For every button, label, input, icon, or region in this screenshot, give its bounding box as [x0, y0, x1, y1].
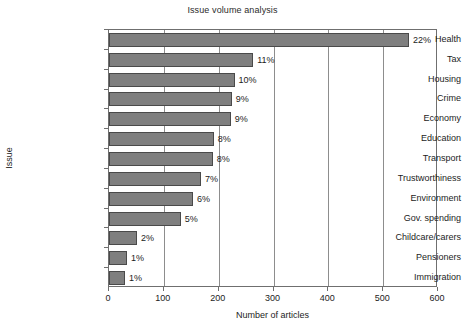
bar[interactable]: [109, 172, 201, 186]
bar-value-label: 1%: [127, 253, 144, 263]
y-tick-mark: [104, 168, 108, 169]
y-axis-title: Issue: [4, 147, 14, 169]
y-tick-mark: [104, 188, 108, 189]
y-tick-label: Pensioners: [361, 252, 465, 262]
x-tick-label: 400: [320, 293, 335, 303]
x-tick-label: 0: [105, 293, 110, 303]
x-tick-label: 600: [429, 293, 444, 303]
bar-chart: Issue volume analysis Issue 22%11%10%9%9…: [0, 0, 465, 335]
y-tick-label: Gov. spending: [361, 213, 465, 223]
y-tick-label: Childcare/carers: [361, 232, 465, 242]
y-tick-label: Health: [361, 34, 465, 44]
y-tick-label: Transport: [361, 153, 465, 163]
y-tick-mark: [104, 108, 108, 109]
bar-value-label: 1%: [125, 273, 142, 283]
bar[interactable]: [109, 112, 231, 126]
y-tick-mark: [104, 89, 108, 90]
y-axis-title-container: Issue: [0, 29, 18, 287]
y-tick-mark: [104, 247, 108, 248]
bar-value-label: 9%: [232, 94, 249, 104]
y-tick-label: Housing: [361, 74, 465, 84]
y-tick-mark: [104, 208, 108, 209]
bar-value-label: 2%: [137, 233, 154, 243]
y-tick-label: Economy: [361, 113, 465, 123]
bar-value-label: 11%: [253, 55, 274, 65]
bar[interactable]: [109, 152, 213, 166]
bar[interactable]: [109, 92, 232, 106]
bar-value-label: 6%: [193, 194, 210, 204]
y-tick-label: Education: [361, 133, 465, 143]
x-tick-label: 200: [210, 293, 225, 303]
x-tick-mark: [382, 287, 383, 291]
y-tick-mark: [104, 49, 108, 50]
y-tick-mark: [104, 29, 108, 30]
bar-value-label: 5%: [181, 214, 198, 224]
x-tick-label: 300: [265, 293, 280, 303]
y-tick-mark: [104, 128, 108, 129]
bar-value-label: 9%: [231, 114, 248, 124]
x-tick-mark: [108, 287, 109, 291]
bar[interactable]: [109, 192, 193, 206]
bar[interactable]: [109, 231, 137, 245]
chart-title: Issue volume analysis: [0, 5, 465, 15]
y-tick-label: Immigration: [361, 272, 465, 282]
x-tick-label: 100: [155, 293, 170, 303]
bar[interactable]: [109, 73, 235, 87]
y-tick-mark: [104, 69, 108, 70]
bar-value-label: 8%: [213, 154, 230, 164]
bar[interactable]: [109, 251, 127, 265]
y-tick-label: Environment: [361, 193, 465, 203]
y-tick-label: Trustworthiness: [361, 173, 465, 183]
x-tick-mark: [327, 287, 328, 291]
y-tick-mark: [104, 148, 108, 149]
y-tick-mark: [104, 267, 108, 268]
bar-value-label: 10%: [235, 75, 257, 85]
x-tick-mark: [163, 287, 164, 291]
bar[interactable]: [109, 53, 253, 67]
bar-value-label: 7%: [201, 174, 218, 184]
y-tick-label: Crime: [361, 93, 465, 103]
bar-value-label: 8%: [214, 134, 231, 144]
bar[interactable]: [109, 271, 125, 285]
bar[interactable]: [109, 132, 214, 146]
y-tick-label: Tax: [361, 54, 465, 64]
x-axis-title: Number of articles: [108, 310, 437, 320]
x-tick-mark: [218, 287, 219, 291]
y-tick-mark: [104, 227, 108, 228]
bar[interactable]: [109, 212, 181, 226]
x-tick-mark: [273, 287, 274, 291]
x-tick-label: 500: [375, 293, 390, 303]
x-tick-mark: [437, 287, 438, 291]
